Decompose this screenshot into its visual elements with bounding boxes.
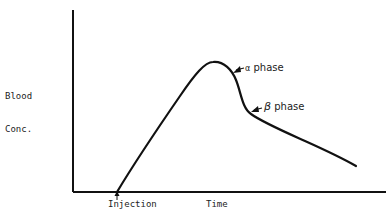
beta-phase-label: β phase bbox=[264, 101, 304, 113]
beta-arrow-icon bbox=[251, 106, 262, 112]
alpha-phase-label: α phase bbox=[245, 62, 284, 75]
x-axis-label: Time bbox=[206, 199, 228, 210]
y-axis-label-line1: Blood bbox=[5, 91, 32, 102]
injection-label: Injection bbox=[108, 199, 157, 210]
alpha-phase-text: phase bbox=[250, 62, 283, 73]
alpha-arrow-icon bbox=[233, 66, 244, 73]
beta-symbol: β bbox=[264, 100, 271, 113]
pharmacokinetic-diagram bbox=[0, 0, 389, 215]
y-axis-label: Blood Conc. bbox=[5, 69, 32, 146]
beta-phase-text: phase bbox=[271, 101, 304, 112]
concentration-curve bbox=[117, 62, 356, 192]
y-axis-label-line2: Conc. bbox=[5, 124, 32, 135]
